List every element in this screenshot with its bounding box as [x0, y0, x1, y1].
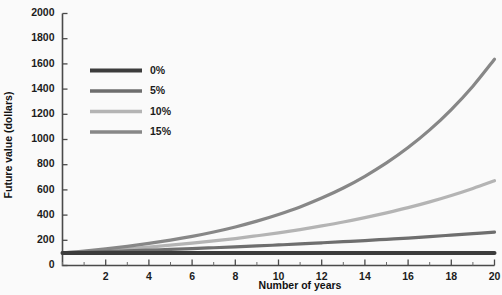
y-tick-label: 1400: [31, 82, 55, 94]
y-tick-label: 1000: [31, 132, 55, 144]
y-tick-label: 0: [49, 258, 55, 270]
x-tick-label: 14: [359, 270, 371, 282]
legend-label-15pct: 15%: [150, 125, 172, 137]
y-axis-title: Future value (dollars): [2, 92, 14, 199]
y-tick-label: 1600: [31, 57, 55, 69]
x-tick-label: 6: [189, 270, 195, 282]
future-value-chart: 0200400600800100012001400160018002000 24…: [0, 0, 502, 295]
y-tick-label: 600: [37, 183, 55, 195]
x-tick-label: 8: [232, 270, 238, 282]
x-tick-label: 18: [445, 270, 457, 282]
y-tick-label: 2000: [31, 6, 55, 18]
legend-label-5pct: 5%: [150, 84, 166, 96]
x-tick-label: 20: [489, 270, 501, 282]
y-tick-label: 1800: [31, 31, 55, 43]
chart-canvas: 0200400600800100012001400160018002000 24…: [0, 0, 502, 295]
legend-label-10pct: 10%: [150, 105, 172, 117]
x-tick-label: 16: [402, 270, 414, 282]
x-tick-label: 4: [146, 270, 152, 282]
y-tick-label: 800: [37, 157, 55, 169]
y-tick-label: 400: [37, 208, 55, 220]
x-axis-title: Number of years: [259, 279, 342, 291]
legend-label-0pct: 0%: [150, 64, 166, 76]
y-tick-label: 200: [37, 233, 55, 245]
y-tick-label: 1200: [31, 107, 55, 119]
x-tick-label: 2: [103, 270, 109, 282]
